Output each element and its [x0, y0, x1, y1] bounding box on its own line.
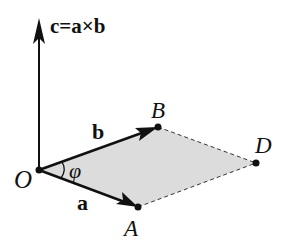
label-point-B: B: [151, 98, 165, 123]
cross-product-diagram: c=a×b b a O B D A φ: [0, 0, 290, 251]
diagram-canvas: c=a×b b a O B D A φ: [0, 0, 290, 251]
label-point-A: A: [122, 216, 139, 241]
label-c-equals-a-cross-b: c=a×b: [50, 14, 105, 38]
point-A: [135, 204, 142, 211]
label-angle-phi: φ: [69, 158, 81, 183]
point-D: [253, 160, 260, 167]
point-B: [155, 124, 162, 131]
point-O: [36, 167, 43, 174]
label-vector-a: a: [77, 190, 88, 215]
label-vector-b: b: [92, 119, 104, 144]
label-point-O: O: [14, 166, 32, 193]
label-point-D: D: [254, 133, 272, 158]
